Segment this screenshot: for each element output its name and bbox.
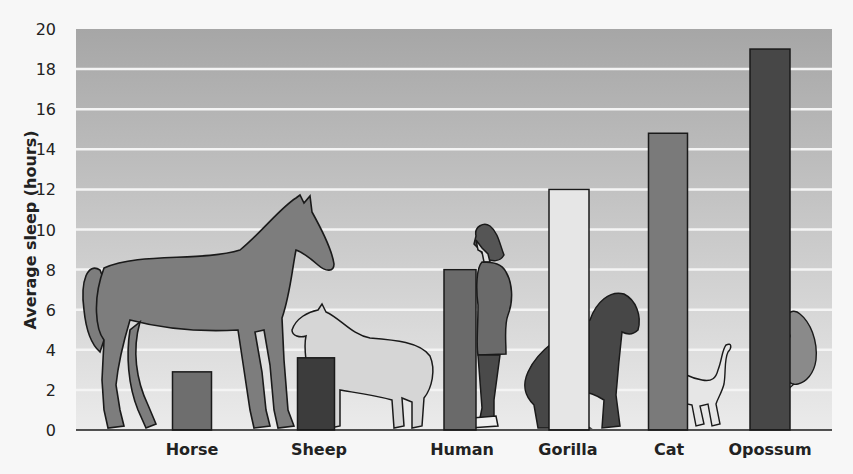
bar-cat: [649, 133, 688, 430]
x-tick-label-horse: Horse: [166, 440, 219, 459]
bar-opossum: [750, 49, 790, 430]
y-tick-label: 4: [46, 341, 56, 360]
x-tick-label-sheep: Sheep: [291, 440, 347, 459]
bar-human: [444, 270, 476, 430]
y-tick-label: 6: [46, 301, 56, 320]
x-tick-label-human: Human: [430, 440, 494, 459]
y-tick-label: 18: [36, 60, 56, 79]
y-tick-label: 20: [36, 20, 56, 39]
bar-horse: [173, 372, 212, 430]
x-tick-label-gorilla: Gorilla: [538, 440, 597, 459]
y-tick-label: 16: [36, 100, 56, 119]
bar-sheep: [298, 358, 335, 430]
y-tick-label: 8: [46, 261, 56, 280]
x-axis-labels: HorseSheepHumanGorillaCatOpossum: [166, 440, 812, 459]
x-tick-label-cat: Cat: [654, 440, 685, 459]
x-tick-label-opossum: Opossum: [728, 440, 811, 459]
sleep-bar-chart: 02468101214161820 Average sleep (hours) …: [0, 0, 853, 474]
bar-gorilla: [549, 189, 589, 430]
y-tick-label: 0: [46, 421, 56, 440]
y-axis-label: Average sleep (hours): [21, 130, 40, 329]
y-tick-label: 2: [46, 381, 56, 400]
